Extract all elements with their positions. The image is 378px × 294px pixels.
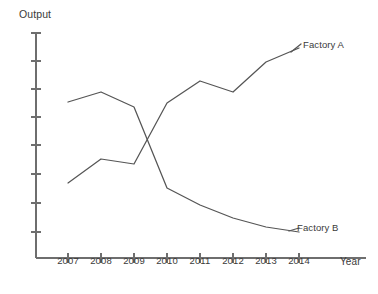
x-tick-label-2007: 2007 — [57, 255, 79, 266]
y-axis-label: Output — [19, 8, 51, 20]
x-tick-label-2013: 2013 — [255, 255, 277, 266]
series-label-factory-b: Factory B — [297, 222, 339, 233]
x-tick-label-2012: 2012 — [222, 255, 244, 266]
x-axis-label: Year — [340, 256, 361, 267]
series-line-declining — [68, 92, 299, 232]
x-tick-label-2008: 2008 — [90, 255, 112, 266]
line-chart: Output Year 2007 2008 2009 2010 2011 201… — [0, 0, 378, 294]
x-tick-label-2010: 2010 — [156, 255, 178, 266]
series-line-rising — [68, 48, 299, 183]
x-tick-label-2014: 2014 — [288, 255, 310, 266]
x-tick-label-2011: 2011 — [190, 255, 211, 266]
x-tick-label-2009: 2009 — [123, 255, 145, 266]
series-label-factory-a: Factory A — [303, 39, 344, 50]
